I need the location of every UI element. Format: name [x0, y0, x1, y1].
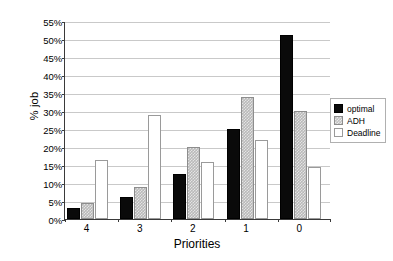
- x-axis-tick-mark: [171, 219, 172, 222]
- bar-optimal-4: [67, 208, 80, 219]
- bar-optimal-1: [227, 129, 240, 219]
- bar-group: [278, 22, 331, 219]
- x-axis-tick-label: 3: [137, 223, 143, 234]
- y-axis-tick-label: 0%: [48, 215, 62, 226]
- bar-adh-3: [134, 187, 147, 219]
- bar-deadline-0: [308, 167, 321, 219]
- legend-swatch-adh: [334, 116, 343, 125]
- chart-legend: optimalADHDeadline: [330, 98, 386, 143]
- bar-deadline-4: [95, 160, 108, 219]
- legend-swatch-deadline: [334, 128, 343, 137]
- y-axis-tick-label: 20%: [43, 143, 62, 154]
- y-axis-tick-label: 25%: [43, 125, 62, 136]
- bar-group: [65, 22, 118, 219]
- bar-group: [225, 22, 278, 219]
- y-axis-tick-labels: 0%5%10%15%20%25%30%35%40%45%50%55%: [28, 0, 62, 261]
- legend-item-adh[interactable]: ADH: [334, 115, 381, 126]
- y-axis-tick-label: 55%: [43, 17, 62, 28]
- x-axis-tick-mark: [118, 219, 119, 222]
- y-axis-tick-label: 40%: [43, 71, 62, 82]
- legend-label: optimal: [347, 104, 374, 114]
- bar-deadline-2: [201, 162, 214, 219]
- legend-label: Deadline: [347, 128, 381, 138]
- bar-optimal-2: [173, 174, 186, 219]
- y-axis-tick-label: 45%: [43, 53, 62, 64]
- y-axis-tick-label: 15%: [43, 161, 62, 172]
- bar-chart: % job 0%5%10%15%20%25%30%35%40%45%50%55%…: [0, 0, 393, 261]
- bar-adh-1: [241, 97, 254, 219]
- x-axis-title: Priorities: [64, 237, 330, 251]
- bar-adh-2: [187, 147, 200, 219]
- x-axis-tick-label: 0: [297, 223, 303, 234]
- bar-adh-4: [81, 203, 94, 219]
- x-axis-tick-label: 1: [243, 223, 249, 234]
- legend-item-optimal[interactable]: optimal: [334, 103, 381, 114]
- x-axis-tick-mark: [225, 219, 226, 222]
- bar-group: [118, 22, 171, 219]
- x-axis-tick-mark: [278, 219, 279, 222]
- x-axis-tick-label: 2: [190, 223, 196, 234]
- bar-optimal-0: [280, 35, 293, 219]
- y-axis-tick-label: 30%: [43, 107, 62, 118]
- y-axis-tick-label: 5%: [48, 197, 62, 208]
- bar-deadline-3: [148, 115, 161, 219]
- bar-group: [171, 22, 224, 219]
- bar-optimal-3: [120, 197, 133, 219]
- y-axis-tick-label: 10%: [43, 179, 62, 190]
- y-axis-tick-label: 50%: [43, 35, 62, 46]
- y-axis-tick-label: 35%: [43, 89, 62, 100]
- x-axis-tick-mark: [65, 219, 66, 222]
- plot-area: [64, 22, 330, 220]
- legend-label: ADH: [347, 116, 365, 126]
- legend-swatch-optimal: [334, 104, 343, 113]
- x-axis-tick-mark: [330, 219, 331, 222]
- x-axis-tick-label: 4: [84, 223, 90, 234]
- bar-adh-0: [294, 111, 307, 219]
- bar-deadline-1: [255, 140, 268, 219]
- legend-item-deadline[interactable]: Deadline: [334, 127, 381, 138]
